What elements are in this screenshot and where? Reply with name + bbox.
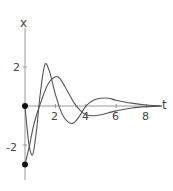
x-tick-label-2: 2: [51, 111, 58, 122]
x-axis-label: t: [162, 99, 167, 111]
y-tick-label-2: 2: [13, 62, 20, 73]
y-axis-label: x: [20, 17, 27, 29]
x-tick-label-6: 6: [112, 111, 119, 122]
x-tick-label-8: 8: [142, 111, 149, 122]
x-tick-label-4: 4: [82, 111, 89, 122]
y-tick-label-neg2: -2: [6, 142, 17, 153]
initial-point: [22, 162, 28, 168]
initial-point: [22, 103, 28, 109]
